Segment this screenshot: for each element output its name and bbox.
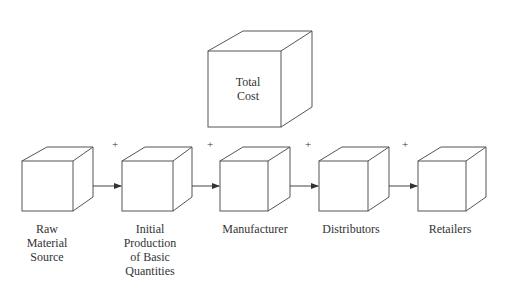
stage-label-initial-production: Initial Production of Basic Quantities <box>112 222 188 278</box>
plus-sign: + <box>402 139 408 150</box>
stage-cube-raw-material <box>22 147 93 211</box>
plus-sign: + <box>207 139 213 150</box>
total-cost-label: Total Cost <box>218 75 278 103</box>
stage-label-retailers: Retailers <box>415 222 485 236</box>
stage-label-manufacturer: Manufacturer <box>210 222 300 236</box>
plus-sign: + <box>305 139 311 150</box>
plus-sign: + <box>112 139 118 150</box>
supply-chain-diagram: Total Cost + + + + Raw Material Source I… <box>0 0 510 283</box>
stage-cube-manufacturer <box>220 147 290 211</box>
stage-label-raw-material: Raw Material Source <box>12 222 82 264</box>
stage-label-distributors: Distributors <box>316 222 386 236</box>
stage-cube-retailers <box>418 147 486 211</box>
stage-cube-distributors <box>319 147 389 211</box>
stage-cube-initial-production <box>122 147 192 211</box>
